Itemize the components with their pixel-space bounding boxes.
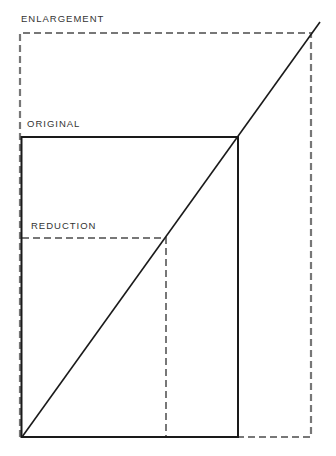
enlargement-rect <box>20 33 311 437</box>
reduction-label: REDUCTION <box>31 220 96 231</box>
original-label: ORIGINAL <box>27 118 80 129</box>
enlargement-label: ENLARGEMENT <box>21 13 104 24</box>
proportion-diagram: ENLARGEMENT ORIGINAL REDUCTION <box>0 0 336 456</box>
